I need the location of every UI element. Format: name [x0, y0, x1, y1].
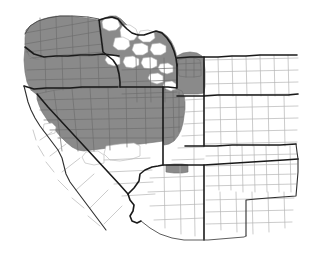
enclave-06: [150, 43, 166, 55]
enclave-09: [141, 57, 157, 69]
enclave-04: [113, 37, 130, 50]
enclave-05: [132, 43, 148, 55]
enclave-01: [102, 18, 120, 31]
enclave-08: [123, 56, 139, 68]
enclave-14: [104, 143, 140, 161]
map-figure: Western United States county map Graysca…: [0, 0, 319, 269]
western-us-county-map: Western United States county map Graysca…: [0, 0, 319, 269]
enclave-15: [82, 151, 104, 165]
region-shaded-outlier-montana: [178, 58, 201, 77]
